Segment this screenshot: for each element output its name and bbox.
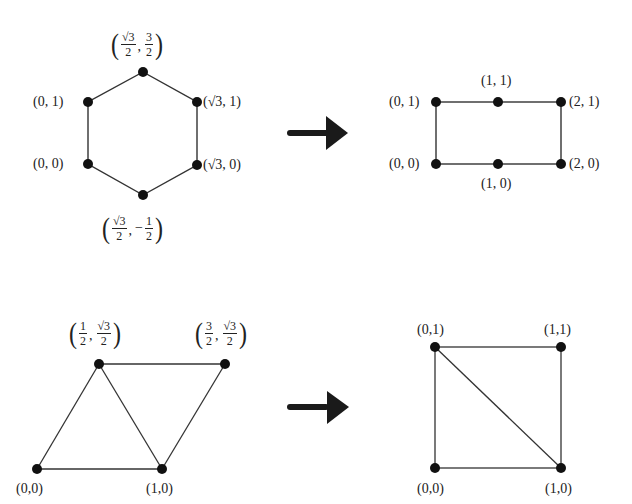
vertex-dot [94, 359, 104, 369]
vertex-label-fraction: ( √32 , − 12 ) [101, 213, 164, 243]
vertex-dot [192, 97, 202, 107]
vertex-dot [138, 67, 148, 77]
vertex-label-fraction: ( √32 , 32 ) [110, 29, 164, 59]
vertex-label: (2, 1) [569, 94, 599, 110]
vertex-label: (√3, 0) [203, 157, 241, 173]
arrow-right-icon [287, 116, 348, 150]
vertex-dot [493, 159, 503, 169]
vertex-label: (1, 1) [481, 73, 511, 89]
vertex-label: (0, 0) [33, 156, 63, 172]
vertex-dot [430, 342, 440, 352]
vertex-dot [556, 159, 566, 169]
rectangle-vertices [431, 97, 566, 169]
parallelogram-graph [37, 364, 225, 469]
vertex-label-fraction: ( 12 , √32 ) [68, 318, 122, 348]
rectangle-edges [436, 102, 561, 164]
vertex-dot [431, 159, 441, 169]
vertex-label: (1,0) [146, 481, 173, 497]
vertex-dot [556, 463, 566, 473]
vertex-dot [220, 359, 230, 369]
vertex-dot [83, 97, 93, 107]
vertex-label: (0, 1) [33, 94, 63, 110]
vertex-label: (0, 0) [389, 156, 419, 172]
vertex-dot [32, 464, 42, 474]
vertex-dot [83, 159, 93, 169]
vertex-label: (√3, 1) [203, 94, 241, 110]
vertex-label: (2, 0) [569, 156, 599, 172]
vertex-dot [192, 160, 202, 170]
hexagon-vertices [83, 67, 202, 200]
hexagon-edges [88, 72, 197, 195]
vertex-dot [556, 342, 566, 352]
vertex-label: (0,0) [417, 481, 444, 497]
vertex-dot [431, 97, 441, 107]
vertex-label-fraction: ( 32 , √32 ) [194, 318, 248, 348]
vertex-label: (0, 1) [389, 94, 419, 110]
rectangle-graph [436, 102, 561, 164]
vertex-dot [157, 464, 167, 474]
vertex-dot [556, 97, 566, 107]
vertex-label: (1, 0) [481, 176, 511, 192]
vertex-label: (0,0) [16, 481, 43, 497]
arrow-right-icon [287, 391, 349, 424]
vertex-dot [138, 190, 148, 200]
vertex-label: (0,1) [417, 322, 444, 338]
diagram-canvas [0, 0, 632, 504]
square-graph [435, 347, 561, 468]
vertex-dot [430, 463, 440, 473]
hexagon-graph [88, 72, 197, 195]
vertex-dot [493, 97, 503, 107]
vertex-label: (1,1) [544, 322, 571, 338]
vertex-label: (1,0) [545, 481, 572, 497]
